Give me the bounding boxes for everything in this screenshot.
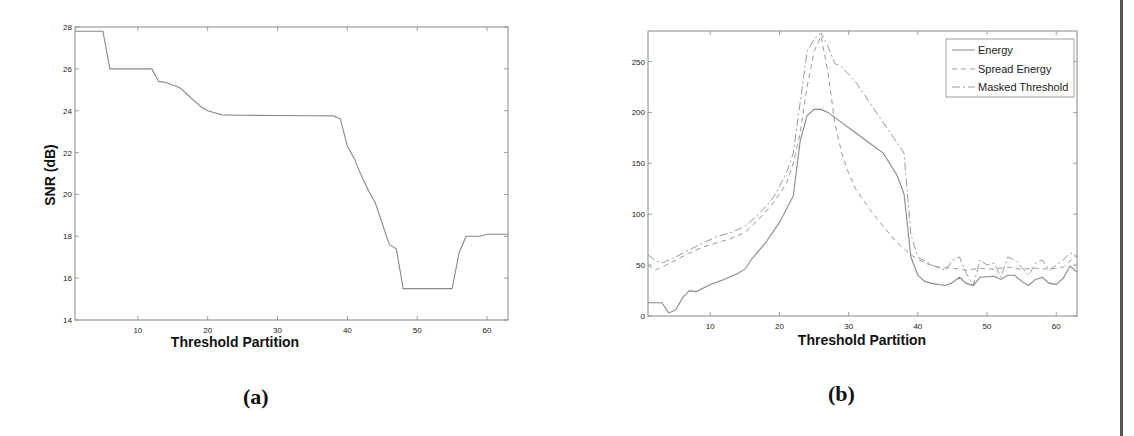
y-tick-label: 16	[63, 274, 72, 283]
y-tick-label: 250	[632, 58, 646, 67]
x-tick-label: 30	[844, 322, 853, 331]
y-tick-label: 20	[63, 190, 72, 199]
y-tick-label: 50	[636, 261, 645, 270]
page-border-line	[1120, 0, 1123, 436]
y-axis-label-a: SNR (dB)	[42, 144, 58, 205]
x-tick-label: 40	[343, 326, 352, 335]
figure: 1020304050601416182022242628 Threshold P…	[0, 0, 1134, 436]
panel-label-b: (b)	[828, 381, 855, 407]
y-tick-label: 26	[63, 65, 72, 74]
legend-label-energy: Energy	[978, 44, 1013, 56]
y-tick-label: 22	[63, 149, 72, 158]
y-tick-label: 150	[632, 159, 646, 168]
y-tick-label: 0	[641, 312, 646, 321]
x-tick-label: 60	[1052, 322, 1061, 331]
x-tick-label: 20	[775, 322, 784, 331]
energy-line	[648, 109, 1077, 313]
y-tick-label: 24	[63, 107, 72, 116]
y-tick-label: 100	[632, 210, 646, 219]
figure-canvas: 1020304050601416182022242628 Threshold P…	[0, 0, 1134, 436]
snr-line	[75, 31, 508, 288]
panel-label-a: (a)	[243, 384, 269, 410]
x-tick-label: 50	[983, 322, 992, 331]
x-tick-label: 40	[913, 322, 922, 331]
x-tick-label: 50	[413, 326, 422, 335]
y-tick-label: 18	[63, 232, 72, 241]
x-axis-label-b: Threshold Partition	[798, 332, 926, 348]
y-tick-label: 14	[63, 316, 72, 325]
x-tick-label: 10	[706, 322, 715, 331]
legend-label-spread-energy: Spread Energy	[978, 63, 1052, 75]
x-tick-label: 10	[133, 326, 142, 335]
chart-a: 1020304050601416182022242628 Threshold P…	[42, 23, 508, 350]
legend-label-masked-threshold: Masked Threshold	[978, 81, 1068, 93]
y-tick-label: 200	[632, 108, 646, 117]
y-tick-label: 28	[63, 23, 72, 32]
legend: Energy Spread Energy Masked Threshold	[946, 39, 1074, 97]
x-tick-label: 60	[483, 326, 492, 335]
x-axis-label-a: Threshold Partition	[171, 334, 299, 350]
plot-frame-a	[75, 27, 508, 320]
chart-b: 102030405060050100150200250 Threshold Pa…	[632, 31, 1077, 348]
